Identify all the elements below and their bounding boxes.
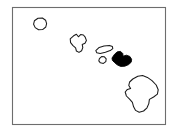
island-lanai[interactable] bbox=[99, 57, 106, 64]
map-canvas bbox=[0, 0, 178, 133]
hawaii-map-figure bbox=[0, 0, 178, 133]
island-kauai[interactable] bbox=[34, 18, 47, 30]
